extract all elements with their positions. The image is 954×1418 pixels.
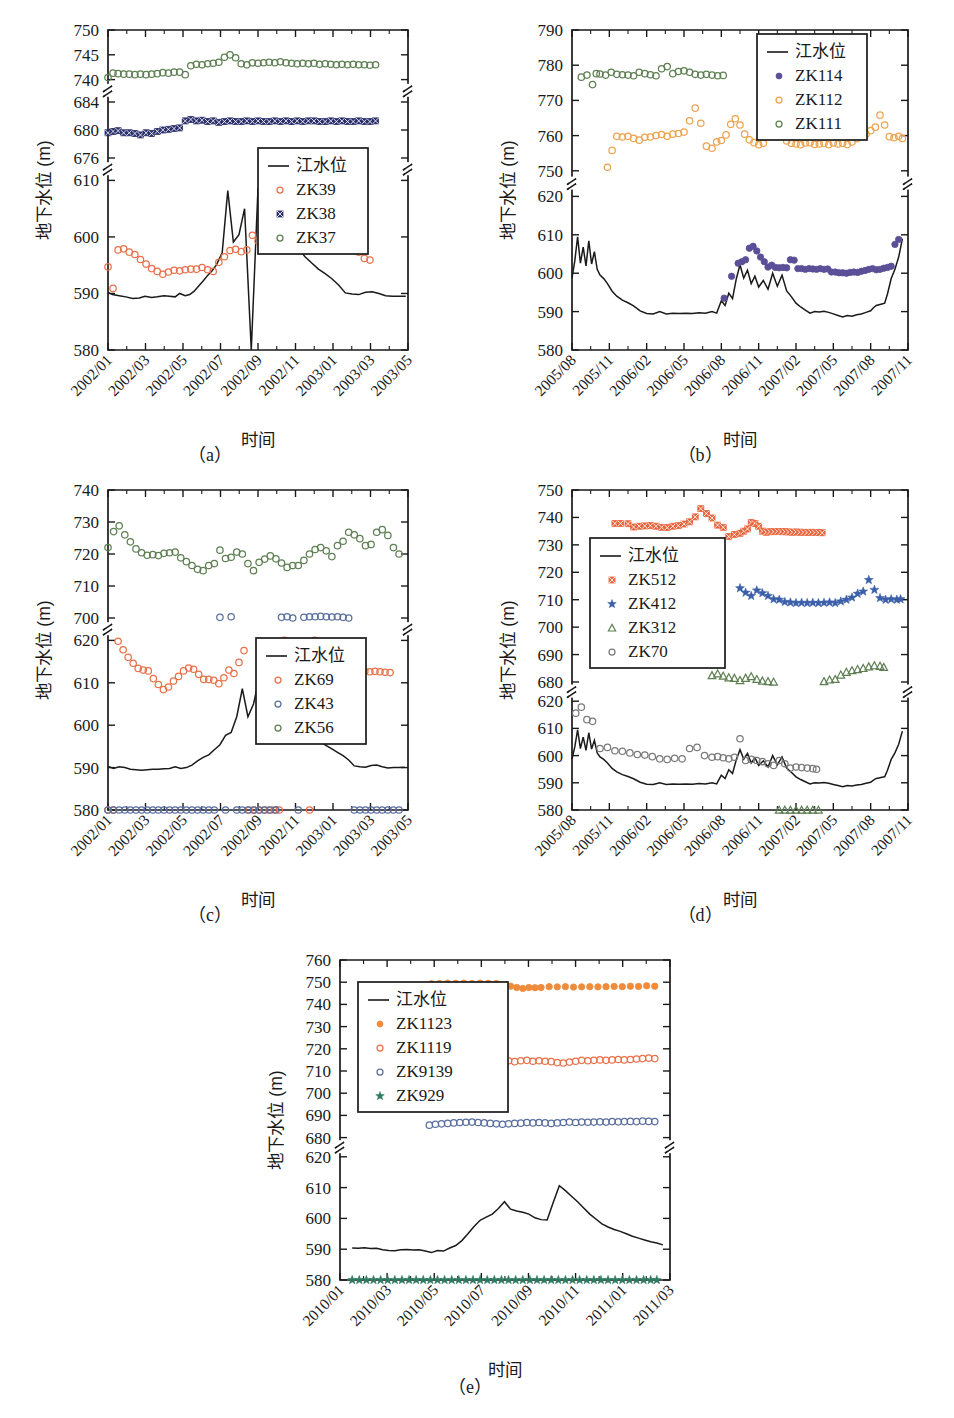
legend-label: ZK56: [294, 718, 334, 737]
legend-label: ZK70: [628, 642, 668, 661]
y-tick-label: 750: [306, 973, 332, 992]
legend-label: 江水位: [296, 156, 347, 175]
y-tick-label: 740: [74, 71, 100, 90]
y-tick-label: 610: [538, 719, 564, 738]
legend-label: ZK38: [296, 204, 336, 223]
y-tick-label: 720: [74, 545, 100, 564]
x-tick-label: 2007/08: [830, 351, 878, 399]
legend-label: ZK111: [795, 114, 842, 133]
legend-label: ZK929: [396, 1086, 444, 1105]
x-tick-label: 2011/03: [629, 1281, 677, 1329]
y-tick-label: 730: [74, 513, 100, 532]
x-tick-label: 2003/01: [292, 351, 340, 399]
x-tick-label: 2006/08: [681, 811, 729, 859]
x-tick-label: 2010/07: [441, 1281, 489, 1329]
series-ZK512: [612, 506, 825, 540]
legend-marker-icon: [377, 1021, 383, 1027]
y-tick-label: 580: [538, 341, 564, 360]
y-tick-label: 700: [306, 1084, 332, 1103]
y-tick-label: 610: [74, 674, 100, 693]
plot-e: 7607507407307207107006906806206106005905…: [258, 948, 688, 1368]
y-tick-label: 600: [74, 716, 100, 735]
legend-label: ZK43: [294, 694, 334, 713]
y-tick-label: 720: [306, 1040, 332, 1059]
y-tick-label: 676: [74, 149, 100, 168]
x-tick-label: 2010/05: [393, 1281, 441, 1329]
series-江水位: [352, 1186, 663, 1253]
x-tick-label: 2002/03: [105, 811, 153, 859]
legend-d: 江水位ZK512ZK412ZK312ZK70: [590, 538, 725, 668]
chart-panel-d: 7507407307207107006906806206106005905802…: [490, 478, 930, 898]
y-tick-label: 780: [538, 56, 564, 75]
y-tick-label: 760: [538, 127, 564, 146]
y-tick-label: 710: [538, 591, 564, 610]
caption-d: （d）: [660, 900, 740, 926]
plot-a: 7507457406846806766106005905802002/01200…: [28, 18, 428, 438]
legend-label: ZK37: [296, 228, 336, 247]
legend-e: 江水位ZK1123ZK1119ZK9139ZK929: [358, 982, 508, 1112]
y-tick-label: 700: [74, 609, 100, 628]
plot-c: 7407307207107006206106005905802002/01200…: [28, 478, 428, 898]
y-tick-label: 590: [74, 284, 100, 303]
y-tick-label: 600: [538, 747, 564, 766]
y-tick-label: 690: [538, 646, 564, 665]
x-tick-label: 2002/07: [180, 811, 228, 859]
chart-panel-e: 7607507407307207107006906806206106005905…: [258, 948, 688, 1368]
y-tick-label: 740: [538, 508, 564, 527]
y-tick-label: 600: [74, 228, 100, 247]
y-tick-label: 600: [306, 1209, 332, 1228]
y-tick-label: 600: [538, 264, 564, 283]
legend-label: ZK1123: [396, 1014, 452, 1033]
y-tick-label: 770: [538, 91, 564, 110]
y-tick-label: 580: [74, 341, 100, 360]
x-tick-label: 2002/07: [180, 351, 228, 399]
legend-label: 江水位: [294, 646, 345, 665]
y-tick-label: 750: [538, 481, 564, 500]
legend-label: ZK512: [628, 570, 676, 589]
x-tick-label: 2007/02: [755, 811, 803, 859]
x-tick-label: 2003/05: [367, 811, 415, 859]
legend-label: ZK69: [294, 670, 334, 689]
caption-e: （e）: [430, 1372, 510, 1398]
legend-label: 江水位: [628, 546, 679, 565]
y-tick-label: 760: [306, 951, 332, 970]
y-tick-label: 700: [538, 618, 564, 637]
legend-c: 江水位ZK69ZK43ZK56: [256, 638, 366, 744]
series-ZK312: [708, 662, 887, 813]
series-ZK37: [105, 52, 379, 81]
x-tick-label: 2007/02: [755, 351, 803, 399]
x-tick-label: 2003/05: [367, 351, 415, 399]
x-tick-label: 2002/09: [217, 811, 265, 859]
legend-marker-icon: [609, 577, 615, 583]
legend-a: 江水位ZK39ZK38ZK37: [258, 148, 368, 254]
legend-label: ZK1119: [396, 1038, 451, 1057]
y-tick-label: 720: [538, 563, 564, 582]
y-tick-label: 750: [74, 21, 100, 40]
series-ZK70: [573, 704, 820, 772]
y-tick-label: 745: [74, 46, 100, 65]
y-tick-label: 790: [538, 21, 564, 40]
y-tick-label: 590: [538, 303, 564, 322]
caption-b: （b）: [660, 440, 740, 466]
y-axis-title: 地下水位 (m): [266, 1070, 286, 1169]
y-tick-label: 590: [74, 759, 100, 778]
y-tick-label: 620: [74, 631, 100, 650]
x-tick-label: 2007/11: [868, 351, 916, 399]
series-ZK56: [105, 523, 402, 574]
x-tick-label: 2006/08: [681, 351, 729, 399]
x-tick-label: 2010/03: [346, 1281, 394, 1329]
x-tick-label: 2007/11: [868, 811, 916, 859]
series-ZK111: [578, 63, 726, 87]
chart-panel-c: 7407307207107006206106005905802002/01200…: [28, 478, 428, 898]
y-tick-label: 610: [538, 226, 564, 245]
legend-label: 江水位: [396, 990, 447, 1009]
x-tick-label: 2003/03: [330, 351, 378, 399]
y-tick-label: 740: [306, 995, 332, 1014]
series-ZK9139: [426, 1118, 658, 1128]
y-tick-label: 580: [538, 801, 564, 820]
legend-b: 江水位ZK114ZK112ZK111: [757, 34, 867, 140]
y-tick-label: 580: [74, 801, 100, 820]
x-tick-label: 2003/01: [292, 811, 340, 859]
x-tick-label: 2006/02: [606, 811, 654, 859]
legend-label: ZK39: [296, 180, 336, 199]
